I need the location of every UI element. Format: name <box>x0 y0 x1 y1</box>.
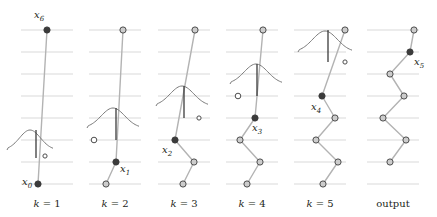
node-selected <box>113 159 119 165</box>
node-sample <box>411 27 417 33</box>
node-sample <box>237 137 243 143</box>
node-sample <box>120 27 126 33</box>
node-selected <box>44 27 50 33</box>
path-edge-2 <box>316 118 335 140</box>
path-edge-1 <box>175 140 194 162</box>
node-selected <box>252 115 258 121</box>
node-sample <box>257 159 263 165</box>
node-label-x0: x0 <box>22 176 33 190</box>
node-sample <box>313 137 319 143</box>
proposal-point <box>43 154 47 158</box>
node-sample <box>387 159 393 165</box>
path-edge-4 <box>383 118 406 140</box>
node-selected <box>407 49 413 55</box>
node-sample <box>387 71 393 77</box>
node-sample <box>380 115 386 121</box>
node-sample <box>103 181 109 187</box>
node-sample <box>180 181 186 187</box>
path-edge-1 <box>322 96 335 118</box>
proposal-point <box>91 137 97 143</box>
sampling-diagram: x6x0x1x2x3x4x5k = 1k = 2k = 3k = 4k = 5o… <box>0 0 437 217</box>
path-edge-3 <box>383 96 404 118</box>
proposal-point <box>343 60 347 64</box>
path-edge-0 <box>38 30 47 184</box>
node-selected <box>35 181 41 187</box>
panel-k2: x1 <box>87 27 141 187</box>
node-sample <box>191 159 197 165</box>
path-edge-0 <box>322 30 345 96</box>
node-sample <box>403 137 409 143</box>
panel-caption-panel-k2: k = 2 <box>101 198 128 209</box>
path-edge-4 <box>323 162 338 184</box>
path-edge-1 <box>390 52 410 74</box>
node-sample <box>401 93 407 99</box>
panel-k5: x4 <box>294 27 352 187</box>
path-edge-2 <box>390 74 404 96</box>
node-sample <box>342 27 348 33</box>
node-selected <box>319 93 325 99</box>
node-label-x5: x5 <box>414 56 425 70</box>
path-edge-0 <box>175 30 195 140</box>
diagram-canvas: x6x0x1x2x3x4x5k = 1k = 2k = 3k = 4k = 5o… <box>0 0 437 217</box>
node-sample <box>335 159 341 165</box>
panel-k1: x6x0 <box>7 9 73 190</box>
panel-caption-panel-output: output <box>376 198 409 209</box>
panel-output: x5 <box>367 27 425 184</box>
path-edge-3 <box>247 162 260 184</box>
proposal-point <box>197 116 201 120</box>
node-sample <box>192 27 198 33</box>
node-sample <box>320 181 326 187</box>
panel-caption-panel-k4: k = 4 <box>238 198 265 209</box>
panel-caption-panel-k5: k = 5 <box>306 198 333 209</box>
node-sample <box>260 27 266 33</box>
node-label-x4: x4 <box>311 101 321 115</box>
node-sample <box>332 115 338 121</box>
path-edge-1 <box>106 162 116 184</box>
node-sample <box>244 181 250 187</box>
proposal-point <box>235 93 241 99</box>
node-label-x6: x6 <box>34 9 45 23</box>
node-label-x3: x3 <box>252 122 263 136</box>
node-label-x1: x1 <box>120 163 130 177</box>
panel-caption-panel-k3: k = 3 <box>170 198 197 209</box>
path-edge-5 <box>390 140 406 162</box>
node-selected <box>172 137 178 143</box>
panel-caption-panel-k1: k = 1 <box>33 198 60 209</box>
panel-k3: x2 <box>156 27 210 187</box>
node-label-x2: x2 <box>162 144 173 158</box>
path-edge-2 <box>183 162 194 184</box>
path-edge-2 <box>240 140 260 162</box>
path-edge-3 <box>316 140 338 162</box>
panel-k4: x3 <box>226 27 282 187</box>
